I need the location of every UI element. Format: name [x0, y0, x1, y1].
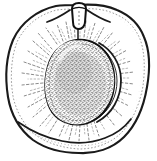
apricot-illustration: Black and white engraved illustration of…	[0, 0, 157, 161]
apricot-line-art-svg	[0, 0, 157, 161]
